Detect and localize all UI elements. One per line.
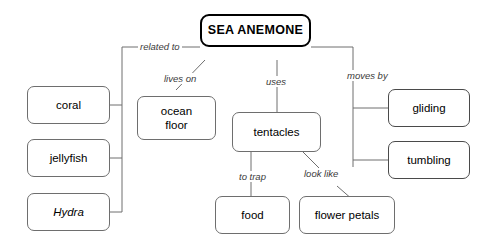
node-tentacles-label: tentacles [253,125,299,139]
node-hydra-label: Hydra [53,205,84,219]
concept-map-canvas: SEA ANEMONE coral jellyfish Hydra ocean … [0,0,493,249]
node-flower-petals[interactable]: flower petals [299,196,395,234]
node-ocean-floor-label-line1: ocean [161,104,192,118]
node-coral-label: coral [56,98,81,112]
node-flower-petals-label: flower petals [315,208,380,222]
edge-label-look-like: look like [302,168,340,179]
connector-tentacles-to-flower-petals [303,152,319,168]
node-tumbling-label: tumbling [407,153,450,167]
node-tumbling[interactable]: tumbling [388,141,470,179]
node-ocean-floor[interactable]: ocean floor [137,96,216,140]
node-gliding[interactable]: gliding [388,89,470,127]
edge-label-moves-by: moves by [345,70,390,81]
edge-label-lives-on: lives on [162,73,198,84]
node-gliding-label: gliding [412,101,445,115]
node-sea-anemone[interactable]: SEA ANEMONE [200,14,311,47]
node-ocean-floor-label-line2: floor [165,118,187,132]
edge-label-related-to: related to [138,41,182,52]
node-food-label: food [241,208,263,222]
edge-label-to-trap: to trap [237,171,268,182]
node-sea-anemone-label: SEA ANEMONE [208,23,303,38]
edge-label-uses: uses [264,76,288,87]
node-food[interactable]: food [215,196,290,234]
node-jellyfish[interactable]: jellyfish [27,139,110,177]
node-coral[interactable]: coral [27,86,110,124]
node-jellyfish-label: jellyfish [50,151,88,165]
node-tentacles[interactable]: tentacles [232,112,321,152]
node-hydra[interactable]: Hydra [27,193,110,231]
